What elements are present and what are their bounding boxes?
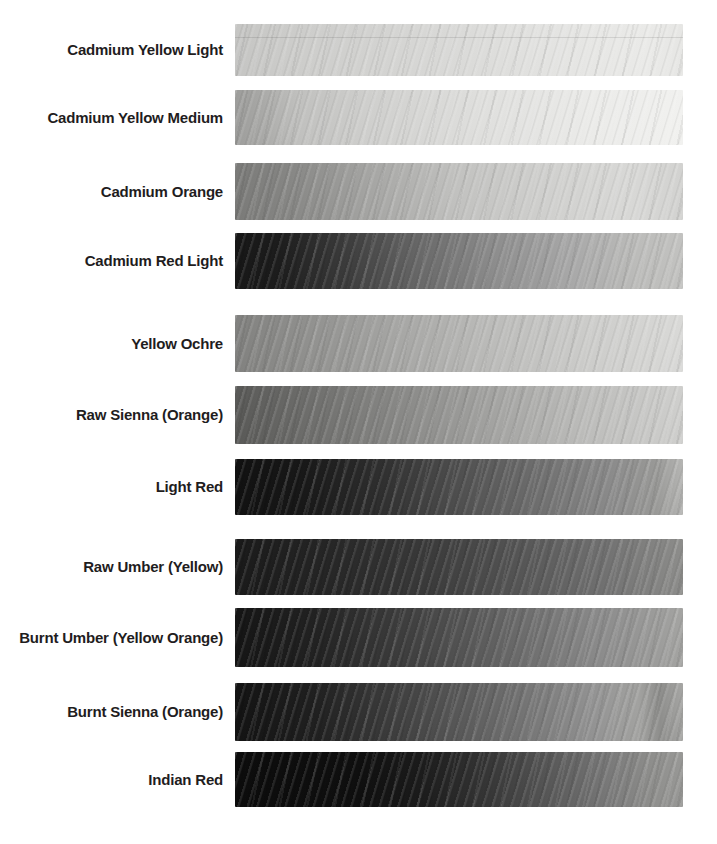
pigment-label: Cadmium Orange <box>0 184 235 200</box>
pigment-row: Cadmium Yellow Medium <box>0 90 717 145</box>
pigment-label: Raw Sienna (Orange) <box>0 407 235 423</box>
pigment-value-swatch <box>235 608 683 667</box>
pigment-row: Cadmium Red Light <box>0 233 717 289</box>
pigment-value-swatch <box>235 752 683 807</box>
pigment-row: Burnt Umber (Yellow Orange) <box>0 608 717 667</box>
pigment-value-swatch <box>235 90 683 145</box>
pigment-value-swatch <box>235 163 683 220</box>
pigment-label: Raw Umber (Yellow) <box>0 559 235 575</box>
pigment-label: Yellow Ochre <box>0 336 235 352</box>
pigment-label: Burnt Sienna (Orange) <box>0 704 235 720</box>
pigment-value-swatch <box>235 683 683 741</box>
pigment-value-swatch <box>235 24 683 76</box>
pigment-row: Light Red <box>0 459 717 515</box>
pigment-value-swatch <box>235 539 683 595</box>
pigment-row: Raw Umber (Yellow) <box>0 539 717 595</box>
pigment-label: Cadmium Yellow Light <box>0 42 235 58</box>
pigment-value-swatch <box>235 459 683 515</box>
pigment-row: Indian Red <box>0 752 717 807</box>
pigment-label: Light Red <box>0 479 235 495</box>
pigment-row-list: Cadmium Yellow Light Cadmium Yellow Medi… <box>0 24 717 807</box>
pigment-label: Burnt Umber (Yellow Orange) <box>0 630 235 646</box>
pigment-label: Cadmium Red Light <box>0 253 235 269</box>
pigment-label: Cadmium Yellow Medium <box>0 110 235 126</box>
pigment-value-swatch <box>235 386 683 444</box>
pigment-row: Cadmium Orange <box>0 163 717 220</box>
pigment-value-chart-page: Cadmium Yellow Light Cadmium Yellow Medi… <box>0 0 717 844</box>
pigment-row: Cadmium Yellow Light <box>0 24 717 76</box>
pigment-value-swatch <box>235 233 683 289</box>
pigment-label: Indian Red <box>0 772 235 788</box>
pigment-row: Raw Sienna (Orange) <box>0 386 717 444</box>
pigment-value-swatch <box>235 315 683 372</box>
pigment-row: Yellow Ochre <box>0 315 717 372</box>
pigment-row: Burnt Sienna (Orange) <box>0 683 717 741</box>
